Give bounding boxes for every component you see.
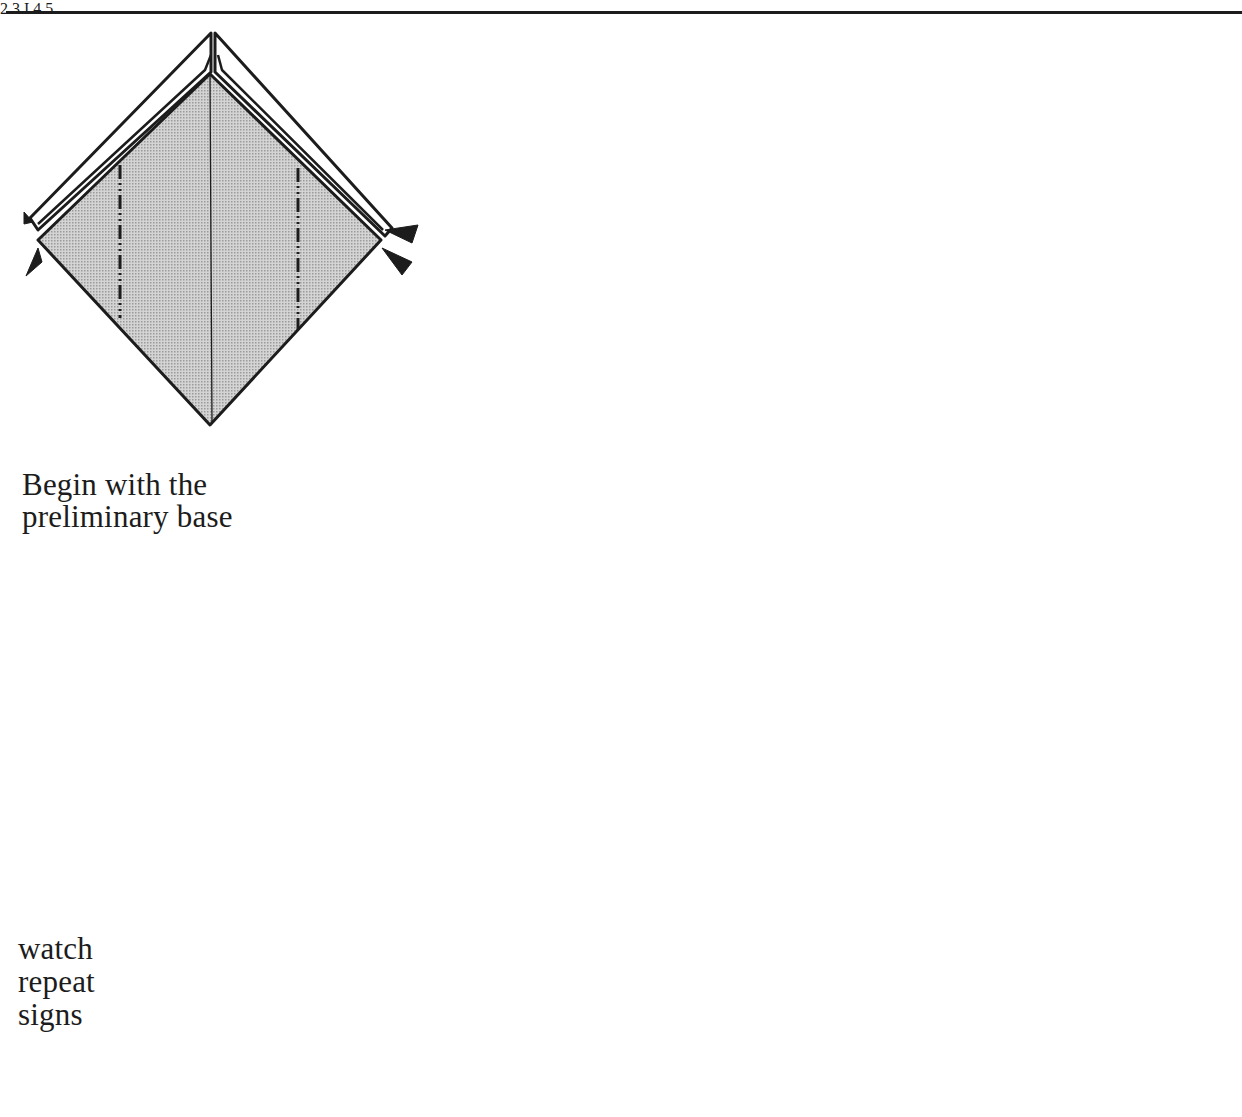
repeat-caption-line-1: watch — [18, 932, 95, 965]
begin-caption: Begin with the preliminary base — [22, 469, 233, 533]
repeat-caption-line-2: repeat — [18, 965, 95, 998]
begin-caption-line-1: Begin with the — [22, 469, 233, 501]
step-1-diagram — [24, 33, 418, 425]
origami-diagram — [0, 0, 1242, 1117]
repeat-signs-caption: watch repeat signs — [18, 932, 95, 1031]
repeat-caption-line-3: signs — [18, 998, 95, 1031]
begin-caption-line-2: preliminary base — [22, 501, 233, 533]
